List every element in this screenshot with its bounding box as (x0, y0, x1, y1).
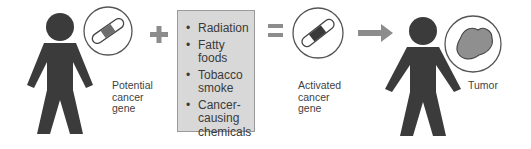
label-line: gene (112, 103, 153, 115)
risk-factor-item: • Cancer- causing chemicals (186, 99, 254, 140)
bullet-icon: • (186, 69, 190, 83)
tumor-label: Tumor (468, 80, 498, 92)
activated-gene-label: Activated cancer gene (298, 80, 341, 115)
risk-factors-list: • Radiation • Fatty foods • Tobacco smok… (186, 22, 254, 142)
bullet-icon: • (186, 39, 190, 53)
risk-factor-text: chemicals (198, 126, 254, 140)
arrow-right-icon (358, 24, 393, 42)
tumor-circle-icon (445, 16, 501, 72)
risk-factor-text: Fatty foods (198, 39, 254, 66)
risk-factor-text: smoke (198, 82, 254, 96)
risk-factor-text: Radiation (198, 22, 254, 36)
plus-icon (150, 26, 168, 43)
label-line: Tumor (468, 80, 498, 92)
risk-factors-box: • Radiation • Fatty foods • Tobacco smok… (177, 10, 255, 132)
bullet-icon: • (186, 99, 190, 113)
diagram-canvas (0, 0, 531, 149)
label-line: Potential (112, 80, 153, 92)
person-silhouette-icon (27, 13, 93, 134)
risk-factor-item: • Radiation (186, 22, 254, 36)
risk-factor-text: Cancer- (198, 99, 254, 113)
activated-gene-circle-icon (293, 8, 343, 58)
risk-factor-item: • Fatty foods (186, 39, 254, 66)
potential-gene-label: Potential cancer gene (112, 80, 153, 115)
label-line: gene (298, 103, 341, 115)
potential-gene-circle-icon (84, 7, 132, 55)
equals-icon (268, 24, 283, 37)
label-line: Activated (298, 80, 341, 92)
bullet-icon: • (186, 22, 190, 36)
risk-factor-item: • Tobacco smoke (186, 69, 254, 96)
risk-factor-text: causing (198, 112, 254, 126)
risk-factor-text: Tobacco (198, 69, 254, 83)
